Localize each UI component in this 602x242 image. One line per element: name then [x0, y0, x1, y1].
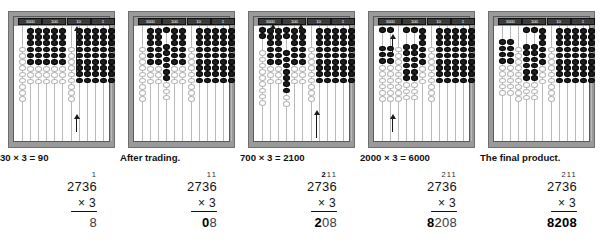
bead-active[interactable] — [291, 34, 298, 40]
bead-inactive[interactable] — [35, 79, 42, 85]
bead-inactive[interactable] — [155, 66, 162, 72]
bead-active[interactable] — [275, 34, 282, 40]
bead-active[interactable] — [419, 34, 426, 40]
bead-active[interactable] — [379, 46, 386, 52]
bead-active[interactable] — [59, 28, 66, 34]
bead-active[interactable] — [452, 34, 459, 40]
bead-active[interactable] — [316, 78, 323, 84]
bead-inactive[interactable] — [387, 78, 394, 84]
bead-active[interactable] — [108, 40, 115, 46]
bead-active[interactable] — [324, 71, 331, 77]
bead-active[interactable] — [348, 59, 355, 65]
bead-active[interactable] — [588, 40, 595, 46]
bead-inactive[interactable] — [19, 90, 26, 96]
bead-active[interactable] — [196, 34, 203, 40]
bead-inactive[interactable] — [147, 79, 154, 85]
bead-active[interactable] — [35, 34, 42, 40]
bead-active[interactable] — [220, 47, 227, 53]
bead-inactive[interactable] — [275, 79, 282, 85]
bead-active[interactable] — [259, 27, 266, 33]
bead-inactive[interactable] — [59, 79, 66, 85]
bead-inactive[interactable] — [43, 72, 50, 78]
bead-active[interactable] — [316, 47, 323, 53]
bead-active[interactable] — [452, 78, 459, 84]
bead-active[interactable] — [228, 59, 235, 65]
bead-active[interactable] — [84, 65, 91, 71]
bead-inactive[interactable] — [428, 65, 435, 71]
bead-inactive[interactable] — [259, 50, 266, 56]
bead-active[interactable] — [196, 47, 203, 53]
bead-inactive[interactable] — [19, 65, 26, 71]
bead-active[interactable] — [220, 28, 227, 34]
bead-active[interactable] — [332, 47, 339, 53]
bead-inactive[interactable] — [68, 84, 75, 90]
bead-active[interactable] — [163, 27, 170, 33]
bead-inactive[interactable] — [499, 84, 506, 90]
bead-active[interactable] — [100, 71, 107, 77]
bead-active[interactable] — [212, 53, 219, 59]
bead-inactive[interactable] — [411, 82, 418, 88]
bead-inactive[interactable] — [379, 84, 386, 90]
bead-inactive[interactable] — [395, 53, 402, 59]
bead-active[interactable] — [155, 59, 162, 65]
bead-inactive[interactable] — [428, 47, 435, 53]
bead-active[interactable] — [411, 75, 418, 81]
bead-active[interactable] — [212, 71, 219, 77]
bead-active[interactable] — [324, 53, 331, 59]
bead-inactive[interactable] — [19, 72, 26, 78]
bead-active[interactable] — [403, 63, 410, 69]
bead-inactive[interactable] — [428, 96, 435, 102]
bead-active[interactable] — [572, 78, 579, 84]
bead-active[interactable] — [436, 40, 443, 46]
bead-inactive[interactable] — [155, 79, 162, 85]
bead-active[interactable] — [580, 65, 587, 71]
bead-active[interactable] — [100, 65, 107, 71]
bead-inactive[interactable] — [275, 66, 282, 72]
bead-active[interactable] — [92, 65, 99, 71]
bead-active[interactable] — [228, 78, 235, 84]
bead-active[interactable] — [572, 71, 579, 77]
bead-inactive[interactable] — [51, 72, 58, 78]
bead-active[interactable] — [379, 52, 386, 58]
bead-active[interactable] — [84, 59, 91, 65]
bead-inactive[interactable] — [188, 65, 195, 71]
bead-inactive[interactable] — [188, 53, 195, 59]
bead-active[interactable] — [283, 27, 290, 33]
bead-active[interactable] — [507, 46, 514, 52]
bead-active[interactable] — [588, 47, 595, 53]
bead-active[interactable] — [460, 59, 467, 65]
bead-inactive[interactable] — [499, 65, 506, 71]
bead-active[interactable] — [196, 28, 203, 34]
bead-inactive[interactable] — [308, 65, 315, 71]
bead-inactive[interactable] — [19, 96, 26, 102]
bead-active[interactable] — [59, 59, 66, 65]
bead-active[interactable] — [539, 40, 546, 46]
bead-active[interactable] — [340, 59, 347, 65]
bead-active[interactable] — [147, 28, 154, 34]
bead-inactive[interactable] — [147, 66, 154, 72]
bead-inactive[interactable] — [515, 78, 522, 84]
bead-active[interactable] — [147, 40, 154, 46]
bead-active[interactable] — [507, 58, 514, 64]
bead-inactive[interactable] — [188, 72, 195, 78]
bead-active[interactable] — [27, 47, 34, 53]
bead-inactive[interactable] — [139, 65, 146, 71]
bead-active[interactable] — [539, 59, 546, 65]
bead-active[interactable] — [340, 40, 347, 46]
bead-active[interactable] — [316, 65, 323, 71]
bead-active[interactable] — [179, 34, 186, 40]
bead-active[interactable] — [291, 40, 298, 46]
bead-active[interactable] — [332, 34, 339, 40]
bead-active[interactable] — [531, 44, 538, 50]
bead-active[interactable] — [468, 28, 475, 34]
bead-active[interactable] — [411, 69, 418, 75]
bead-active[interactable] — [588, 65, 595, 71]
bead-active[interactable] — [228, 40, 235, 46]
bead-inactive[interactable] — [139, 59, 146, 65]
bead-active[interactable] — [387, 46, 394, 52]
bead-inactive[interactable] — [163, 95, 170, 101]
bead-active[interactable] — [332, 65, 339, 71]
bead-active[interactable] — [436, 65, 443, 71]
bead-active[interactable] — [275, 40, 282, 46]
bead-active[interactable] — [204, 71, 211, 77]
